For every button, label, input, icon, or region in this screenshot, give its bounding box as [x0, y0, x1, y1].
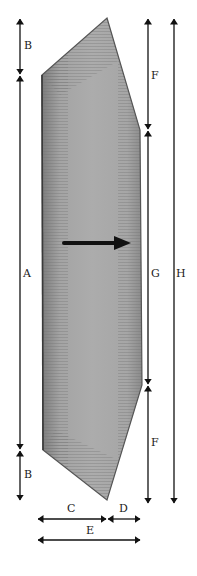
- label-c: C: [67, 503, 75, 514]
- label-d: D: [119, 503, 128, 514]
- label-a: A: [23, 268, 31, 279]
- label-b-bottom: B: [24, 469, 32, 480]
- label-f-bottom: F: [151, 437, 159, 448]
- plate-shape: [40, 15, 144, 505]
- label-h: H: [176, 268, 186, 279]
- label-g: G: [151, 268, 160, 279]
- label-b-top: B: [24, 40, 32, 51]
- dimension-diagram: [0, 0, 197, 576]
- label-e: E: [86, 525, 94, 536]
- label-f-top: F: [151, 70, 159, 81]
